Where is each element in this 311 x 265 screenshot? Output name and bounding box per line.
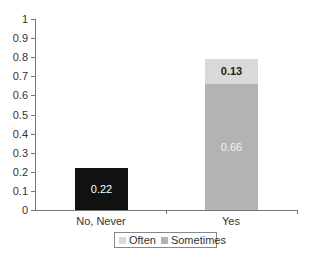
y-tick-label: 0.8 — [4, 51, 28, 63]
legend-swatch-often — [119, 237, 126, 244]
y-tick — [31, 172, 35, 173]
legend: Often Sometimes — [114, 232, 217, 248]
y-tick-label: 0.7 — [4, 70, 28, 82]
y-tick — [31, 191, 35, 192]
data-label-often: 0.13 — [205, 65, 258, 77]
legend-swatch-sometimes — [161, 237, 168, 244]
legend-item-often: Often — [119, 234, 156, 246]
x-label-yes: Yes — [181, 215, 281, 227]
y-tick-label: 0 — [4, 204, 28, 216]
y-tick — [31, 38, 35, 39]
y-tick-label: 0.6 — [4, 89, 28, 101]
y-axis — [35, 19, 36, 211]
y-tick — [31, 76, 35, 77]
data-label-sometimes: 0.66 — [205, 141, 258, 153]
y-tick-label: 1 — [4, 13, 28, 25]
x-tick — [166, 210, 167, 214]
y-tick-label: 0.4 — [4, 128, 28, 140]
y-tick — [31, 153, 35, 154]
y-tick — [31, 115, 35, 116]
x-tick — [297, 210, 298, 214]
legend-label-often: Often — [129, 234, 156, 246]
legend-label-sometimes: Sometimes — [171, 234, 226, 246]
y-tick — [31, 210, 35, 211]
y-tick-label: 0.1 — [4, 185, 28, 197]
y-tick-label: 0.3 — [4, 147, 28, 159]
y-tick — [31, 57, 35, 58]
data-label-no-never: 0.22 — [75, 183, 128, 195]
x-label-no-never: No, Never — [51, 215, 151, 227]
y-tick — [31, 134, 35, 135]
y-tick — [31, 19, 35, 20]
y-tick-label: 0.2 — [4, 166, 28, 178]
y-tick-label: 0.5 — [4, 109, 28, 121]
y-tick — [31, 95, 35, 96]
legend-item-sometimes: Sometimes — [161, 234, 226, 246]
y-tick-label: 0.9 — [4, 32, 28, 44]
